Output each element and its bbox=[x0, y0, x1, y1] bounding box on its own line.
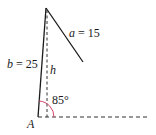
label-side-b: b = 25 bbox=[7, 57, 38, 71]
side-b bbox=[38, 8, 46, 117]
label-side-a: a = 15 bbox=[69, 26, 100, 40]
label-vertex-a: A bbox=[26, 117, 35, 131]
triangle-diagram: a = 15 b = 25 h 85° A bbox=[0, 0, 156, 135]
label-angle: 85° bbox=[52, 93, 69, 107]
label-height: h bbox=[50, 63, 56, 77]
